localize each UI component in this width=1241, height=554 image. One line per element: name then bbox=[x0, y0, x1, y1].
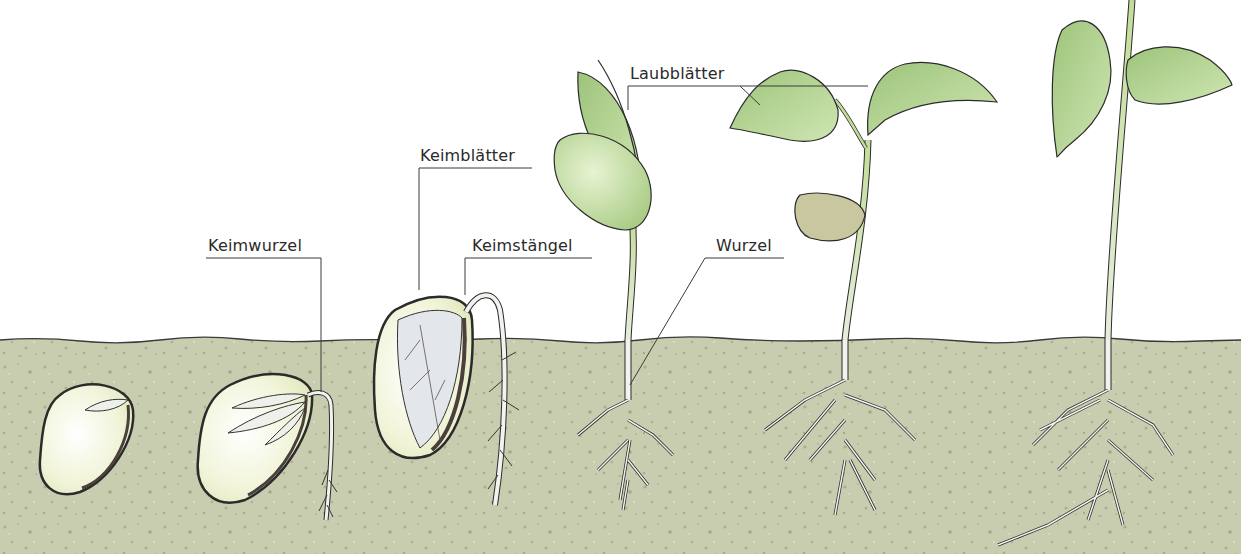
bean-germination-diagram: Keimwurzel Keimblätter Keimstängel Laubb… bbox=[0, 0, 1241, 554]
label-keimstaengel: Keimstängel bbox=[472, 236, 573, 255]
label-keimblaetter: Keimblätter bbox=[420, 146, 515, 165]
label-laubblaetter: Laubblätter bbox=[630, 64, 725, 83]
label-keimwurzel: Keimwurzel bbox=[208, 236, 302, 255]
label-wurzel: Wurzel bbox=[716, 236, 772, 255]
